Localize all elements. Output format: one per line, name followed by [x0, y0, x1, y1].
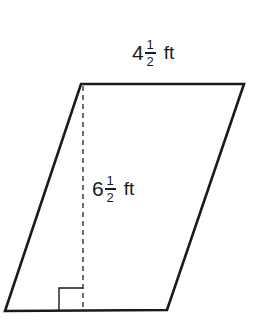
parallelogram-figure: [0, 0, 257, 326]
base-numerator: 1: [146, 38, 155, 52]
height-numerator: 1: [106, 174, 115, 188]
height-denominator: 2: [107, 190, 114, 204]
height-fraction: 1 2: [105, 174, 116, 204]
base-whole: 4: [132, 42, 144, 63]
base-unit: ft: [164, 43, 175, 62]
base-length-label: 4 1 2 ft: [132, 38, 174, 68]
height-length-label: 6 1 2 ft: [92, 174, 134, 204]
base-fraction: 1 2: [145, 38, 156, 68]
right-angle-marker: [59, 288, 83, 310]
height-unit: ft: [124, 179, 135, 198]
height-whole: 6: [92, 178, 104, 199]
base-denominator: 2: [147, 54, 154, 68]
